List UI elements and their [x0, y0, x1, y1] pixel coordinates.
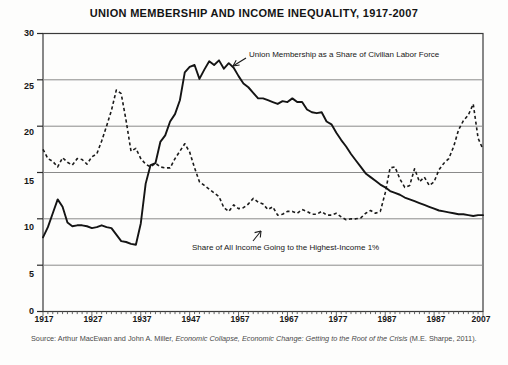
- series-income-share-line: [43, 90, 483, 220]
- annotation-arrow-income: [253, 231, 261, 241]
- source-prefix: Source:: [31, 334, 56, 343]
- chart-plot-area: [0, 0, 508, 365]
- chart-container: UNION MEMBERSHIP AND INCOME INEQUALITY, …: [0, 0, 508, 365]
- annotation-arrow-union: [233, 58, 246, 66]
- gridlines: [43, 80, 483, 265]
- source-text-a: Arthur MacEwan and John A. Miller,: [56, 334, 175, 343]
- series-union-membership-line: [43, 60, 483, 244]
- source-text-b: (M.E. Sharpe, 2011).: [407, 334, 476, 343]
- source-title-italic: Economic Collapse, Economic Change: Gett…: [175, 334, 407, 343]
- x-axis-minor-ticks: [43, 312, 483, 317]
- source-note: Source: Arthur MacEwan and John A. Mille…: [31, 333, 486, 345]
- y-axis-ticks: [37, 34, 43, 312]
